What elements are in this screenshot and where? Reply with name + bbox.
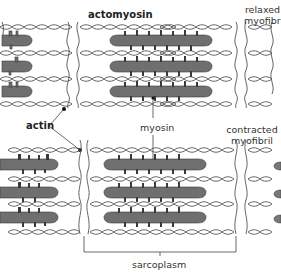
label-myosin: myosin — [140, 122, 174, 133]
myosin-filaments-relaxed-center — [110, 30, 212, 101]
label-contracted-line2: myofibril — [222, 135, 281, 146]
label-relaxed-line1: relaxed — [244, 4, 281, 15]
myosin-filaments-contracted-left — [0, 154, 58, 227]
myosin-filaments-contracted-center — [104, 154, 206, 227]
myosin-stubs-contracted-right — [274, 162, 281, 223]
relaxed-myofibril — [0, 22, 273, 108]
label-relaxed-myofibril: relaxed myofibril — [244, 4, 281, 26]
label-relaxed-line2: myofibril — [244, 15, 281, 26]
contracted-myofibril — [0, 140, 281, 234]
myosin-filaments-relaxed-left — [2, 31, 32, 97]
label-contracted-myofibril: contracted myofibril — [222, 124, 281, 146]
label-actin: actin — [26, 120, 54, 131]
label-sarcoplasm: sarcoplasm — [132, 259, 186, 270]
label-contracted-line1: contracted — [222, 124, 281, 135]
label-pointers — [49, 96, 236, 256]
myofibril-diagram: actomyosin relaxed myofibril actin myosi… — [0, 0, 281, 275]
label-actomyosin: actomyosin — [88, 9, 153, 20]
